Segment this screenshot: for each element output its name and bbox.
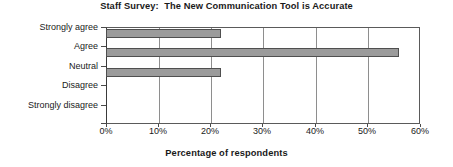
bar-band [106, 46, 420, 65]
chart-title: Staff Survey: The New Communication Tool… [0, 1, 453, 11]
x-axis-tick [210, 124, 211, 127]
x-axis-tick [315, 124, 316, 127]
bar-band [106, 85, 420, 104]
x-axis-tick-label: 20% [201, 126, 219, 136]
x-axis-tick [106, 124, 107, 127]
x-axis-title: Percentage of respondents [0, 148, 453, 158]
y-axis-label-disagree: Disagree [62, 80, 98, 90]
bar-series [106, 27, 420, 124]
bar-neutral [106, 68, 221, 77]
x-axis-tick-label: 10% [149, 126, 167, 136]
bar-chart: Staff Survey: The New Communication Tool… [0, 0, 453, 167]
x-axis-tick-labels: 0% 10% 20% 30% 40% 50% 60% [0, 126, 453, 140]
y-axis-label-agree: Agree [74, 41, 98, 51]
x-axis-tick-label: 60% [411, 126, 429, 136]
bar-band [106, 27, 420, 46]
y-axis-label-neutral: Neutral [69, 61, 98, 71]
y-axis-tick [101, 66, 106, 67]
x-axis-tick-label: 30% [253, 126, 271, 136]
y-axis-label-strongly-agree: Strongly agree [39, 22, 98, 32]
y-axis-label-strongly-disagree: Strongly disagree [28, 100, 98, 110]
x-axis-tick-label: 0% [99, 126, 112, 136]
y-axis-tick [101, 85, 106, 86]
bar-strongly-agree [106, 29, 221, 38]
x-axis-tick-label: 50% [358, 126, 376, 136]
bar-band [106, 105, 420, 124]
y-axis-tick [101, 105, 106, 106]
y-axis-tick [101, 46, 106, 47]
x-axis-tick-label: 40% [306, 126, 324, 136]
x-axis-tick [262, 124, 263, 127]
x-axis-tick [158, 124, 159, 127]
bar-agree [106, 48, 399, 57]
x-axis-tick [367, 124, 368, 127]
y-axis: Strongly agree Agree Neutral Disagree St… [0, 27, 104, 124]
bar-band [106, 66, 420, 85]
x-axis-tick [420, 124, 421, 127]
y-axis-tick [101, 27, 106, 28]
